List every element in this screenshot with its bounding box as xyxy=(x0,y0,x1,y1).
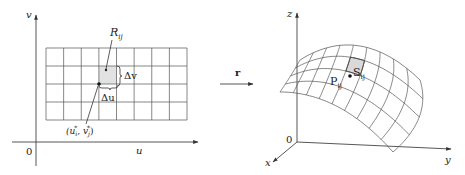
sample-point-pointer xyxy=(86,86,98,124)
delta-v-label: Δv xyxy=(124,70,137,81)
origin-label-uv: 0 xyxy=(26,146,32,157)
delta-v-brace xyxy=(117,66,122,86)
surface-panel: z x y 0 Pij Sij xyxy=(265,8,451,168)
x-axis-label: x xyxy=(265,157,271,168)
surface-area-diagram: v u 0 Rij Δv Δu (ui*, vj*) r z x y xyxy=(0,0,465,175)
y-axis xyxy=(297,142,451,149)
v-axis-label: v xyxy=(26,9,32,20)
surface-u-curve xyxy=(369,59,394,128)
surface-u-curve xyxy=(319,45,340,98)
u-axis-label: u xyxy=(136,145,142,156)
uv-grid xyxy=(46,48,187,120)
region-label: Rij xyxy=(109,26,124,41)
sample-point-label: (ui*, vj*) xyxy=(66,124,93,138)
sample-point-dot xyxy=(97,82,101,86)
y-axis-label: y xyxy=(444,154,451,165)
delta-u-brace xyxy=(99,86,118,90)
region-pointer xyxy=(106,40,112,69)
delta-u-label: Δu xyxy=(101,92,115,103)
region-rij-cell xyxy=(99,66,117,84)
surface-u-curve xyxy=(381,68,408,139)
point-pij-label: Pij xyxy=(330,75,342,90)
mapping-r: r xyxy=(220,67,253,84)
point-pij-dot xyxy=(348,74,352,78)
z-axis-label: z xyxy=(286,8,293,19)
x-axis xyxy=(273,142,297,162)
region-center-dot xyxy=(105,69,107,71)
patch-sij-label: Sij xyxy=(353,66,365,81)
parametric-surface xyxy=(280,45,423,152)
surface-v-curve xyxy=(285,81,409,135)
origin-label-xyz: 0 xyxy=(286,134,292,145)
mapping-label: r xyxy=(235,67,241,78)
uv-domain-panel: v u 0 Rij Δv Δu (ui*, vj*) xyxy=(12,9,198,166)
